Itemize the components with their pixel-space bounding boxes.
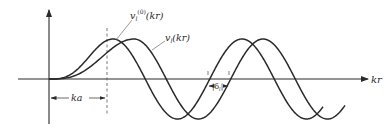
scattered-curve-label: vl(kr) <box>165 32 190 44</box>
ka-label: ka <box>71 92 83 103</box>
scattered-curve-leader <box>152 41 165 50</box>
free-curve-label: vl(0)(kr) <box>130 8 164 22</box>
x-axis-label: kr <box>371 74 383 85</box>
free-curve-leader <box>116 20 132 40</box>
phase-shift-diagram: kr ka vl(0)(kr) vl(kr) |δl| <box>0 0 387 130</box>
phase-shift-label: |δl| <box>212 82 223 92</box>
